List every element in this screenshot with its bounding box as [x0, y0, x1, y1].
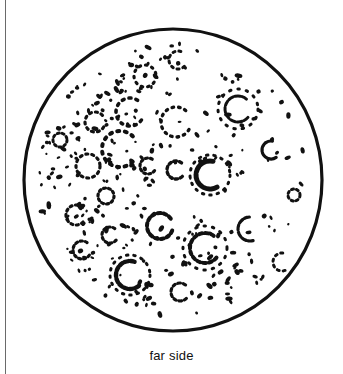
crater-ring [165, 47, 190, 72]
crater-ring [163, 157, 188, 182]
crater-ring [220, 91, 257, 128]
crater-ring [95, 124, 146, 175]
surface-speckle-dots [38, 41, 305, 318]
crater-ring [288, 189, 300, 201]
crater-ring [99, 224, 122, 247]
crater-ring [270, 250, 293, 273]
crater-ring [111, 93, 150, 132]
crater-ring [143, 209, 176, 242]
crater-ring [98, 188, 114, 204]
crater-ring [53, 133, 67, 147]
crater-ring [167, 279, 192, 304]
crater-ring [81, 108, 108, 135]
moon-far-side-illustration [0, 0, 343, 374]
crater-rings [53, 47, 300, 304]
crater-ring [258, 137, 283, 162]
figure-caption: far side [0, 348, 343, 363]
crater-ring [235, 214, 264, 243]
crater-ring [156, 102, 197, 143]
